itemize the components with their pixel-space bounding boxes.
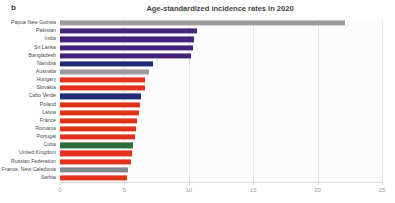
bar: [60, 78, 145, 83]
bar-row: Portugal: [0, 133, 395, 141]
bar-row: France: [0, 117, 395, 125]
bar: [60, 45, 193, 50]
category-label: Hungary: [36, 78, 56, 83]
panel-label: b: [11, 3, 16, 12]
chart-figure: b Age-standardized incidence rates in 20…: [0, 0, 395, 203]
category-label: Bangladesh: [29, 53, 56, 58]
bar-row: Papua New Guinea: [0, 19, 395, 27]
bar-row: Cabo Verde: [0, 92, 395, 100]
x-tick-mark: [253, 182, 254, 185]
bar: [60, 110, 139, 115]
bar-row: France, New Caledonia: [0, 166, 395, 174]
category-label: Cuba: [44, 143, 56, 148]
category-label: Namibia: [37, 61, 56, 66]
bar: [60, 126, 136, 131]
bar: [60, 94, 141, 99]
category-label: Romania: [35, 126, 56, 131]
category-label: India: [45, 37, 56, 42]
bar: [60, 135, 135, 140]
x-tick-label: 20: [314, 187, 321, 193]
x-tick-label: 15: [250, 187, 257, 193]
category-label: Sri Lanka: [34, 45, 56, 50]
x-tick-mark: [382, 182, 383, 185]
category-label: Poland: [40, 102, 56, 107]
category-label: United Kingdom: [19, 151, 56, 156]
bar-row: Bangladesh: [0, 52, 395, 60]
bar-row: Cuba: [0, 141, 395, 149]
bar: [60, 29, 197, 34]
category-label: Papua New Guinea: [11, 20, 56, 25]
x-tick-mark: [60, 182, 61, 185]
bar: [60, 151, 132, 156]
category-label: France, New Caledonia: [2, 167, 56, 172]
bar-row: Namibia: [0, 60, 395, 68]
bar: [60, 61, 153, 66]
category-label: Slovakia: [36, 86, 56, 91]
category-label: Russian Federation: [11, 159, 56, 164]
chart-title: Age-standardized incidence rates in 2020: [60, 4, 380, 13]
bar-row: Australia: [0, 68, 395, 76]
bar: [60, 86, 145, 91]
category-label: Serbia: [41, 175, 56, 180]
x-tick-mark: [318, 182, 319, 185]
bar-row: Slovakia: [0, 84, 395, 92]
x-tick-label: 5: [123, 187, 126, 193]
x-tick-mark: [189, 182, 190, 185]
bar: [60, 159, 131, 164]
category-label: Cabo Verde: [29, 94, 56, 99]
bar-row: India: [0, 35, 395, 43]
bar-row: Sri Lanka: [0, 43, 395, 51]
x-axis-line: [60, 182, 382, 183]
bar: [60, 175, 127, 180]
bar: [60, 69, 149, 74]
x-tick-label: 10: [185, 187, 192, 193]
category-label: Portugal: [37, 135, 56, 140]
x-tick-label: 25: [379, 187, 386, 193]
bar-row: United Kingdom: [0, 149, 395, 157]
bar: [60, 102, 140, 107]
bar-row: Pakistan: [0, 27, 395, 35]
bar: [60, 143, 133, 148]
bar-row: Romania: [0, 125, 395, 133]
category-label: Latvia: [42, 110, 56, 115]
bar-row: Latvia: [0, 109, 395, 117]
bar-row: Russian Federation: [0, 158, 395, 166]
bar-row: Hungary: [0, 76, 395, 84]
bar: [60, 167, 128, 172]
bar-row: Poland: [0, 101, 395, 109]
category-label: Pakistan: [36, 29, 56, 34]
x-tick-label: 0: [58, 187, 61, 193]
category-label: Australia: [36, 69, 56, 74]
bar: [60, 118, 137, 123]
bar: [60, 20, 345, 25]
bar: [60, 37, 194, 42]
bar: [60, 53, 191, 58]
bar-row: Serbia: [0, 174, 395, 182]
category-label: France: [40, 118, 56, 123]
x-tick-mark: [124, 182, 125, 185]
